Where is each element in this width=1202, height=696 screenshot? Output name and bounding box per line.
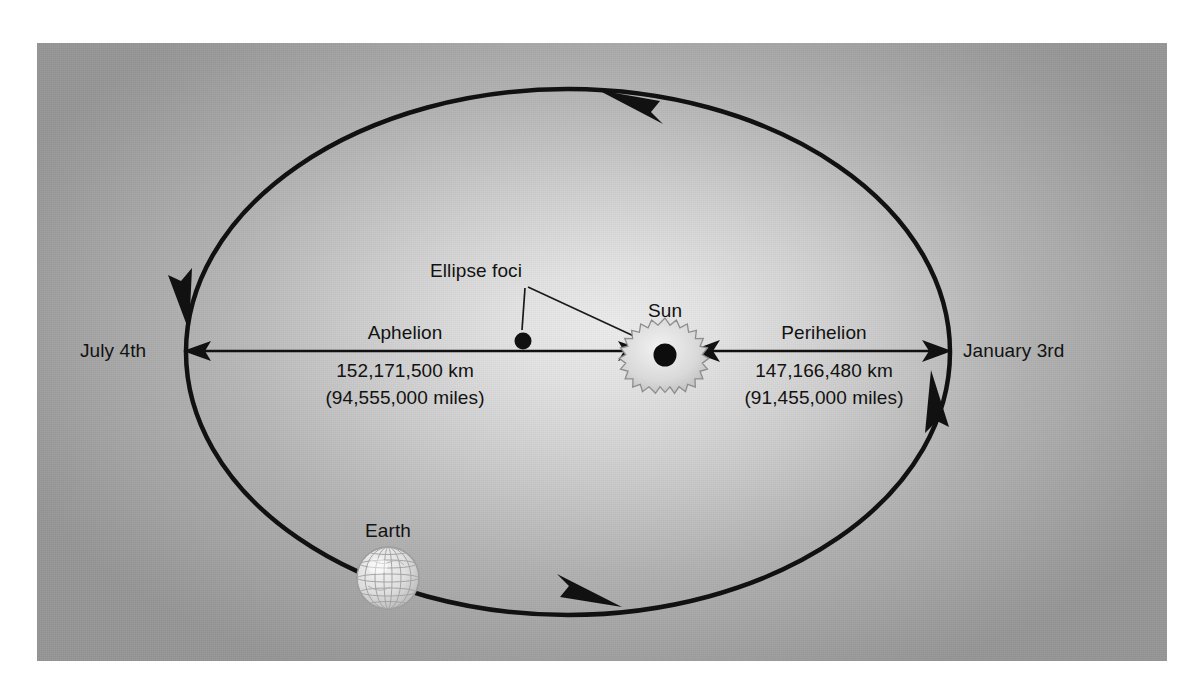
figure-canvas: July 4th January 3rd Sun Earth Ellipse f… <box>0 0 1202 696</box>
earth-body <box>357 547 419 609</box>
earth-highlight <box>368 558 388 574</box>
sun-core-dot <box>654 344 677 367</box>
orbit-arrow-bottom <box>557 574 622 607</box>
label-perihelion-name: Perihelion <box>694 320 954 345</box>
label-aphelion-name: Aphelion <box>275 320 535 345</box>
label-july-4th: July 4th <box>80 338 146 363</box>
label-perihelion-miles: (91,455,000 miles) <box>694 385 954 410</box>
label-aphelion-km: 152,171,500 km <box>275 358 535 383</box>
orbit-arrow-left <box>168 268 192 331</box>
label-january-3rd: January 3rd <box>963 338 1064 363</box>
label-earth: Earth <box>338 518 438 543</box>
label-perihelion-km: 147,166,480 km <box>694 358 954 383</box>
label-ellipse-foci: Ellipse foci <box>430 258 522 283</box>
label-aphelion-miles: (94,555,000 miles) <box>275 385 535 410</box>
